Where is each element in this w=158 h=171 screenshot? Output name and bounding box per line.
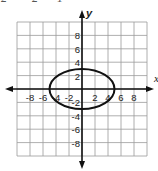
y-axis-down-arrow-icon — [79, 161, 85, 169]
y-tick-label: 8 — [75, 30, 80, 41]
y-axis: y — [79, 7, 93, 169]
x-tick-label: -8 — [26, 92, 34, 103]
y-tick-label: 2 — [75, 71, 80, 82]
y-tick-label: -4 — [72, 111, 80, 122]
y-tick-label: 4 — [75, 57, 80, 68]
x-tick-label: -6 — [39, 92, 47, 103]
x-axis-label: x — [153, 72, 158, 84]
y-axis-up-arrow-icon — [79, 10, 85, 18]
y-tick-label: -2 — [72, 97, 80, 108]
coordinate-plane: x y -8-6-4-22468 8642-2-4-6-8 — [0, 0, 158, 171]
y-axis-label: y — [85, 7, 93, 19]
x-tick-label: 2 — [92, 92, 97, 103]
y-tick-label: -6 — [72, 124, 80, 135]
x-axis-left-arrow-icon — [5, 86, 13, 92]
x-tick-label: 6 — [118, 92, 123, 103]
y-tick-label: -8 — [72, 138, 80, 149]
x-tick-label: 8 — [131, 92, 136, 103]
x-axis-right-arrow-icon — [146, 86, 154, 92]
y-tick-label: 6 — [75, 44, 80, 55]
